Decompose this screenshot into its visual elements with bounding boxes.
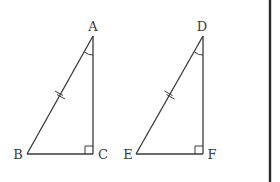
vertex-label-a: A xyxy=(87,19,98,34)
vertex-label-f: F xyxy=(207,147,216,162)
side-ab xyxy=(27,36,93,154)
vertex-label-d: D xyxy=(197,19,207,34)
right-angle-mark-f xyxy=(195,146,203,154)
side-de xyxy=(136,36,203,154)
geometry-diagram: A B C D E F xyxy=(0,0,280,182)
angle-arc-a xyxy=(84,52,93,55)
angle-arc-d xyxy=(194,52,203,55)
triangle-abc: A B C xyxy=(13,19,108,162)
triangle-def: D E F xyxy=(123,19,216,162)
vertex-label-c: C xyxy=(98,147,108,162)
vertex-label-b: B xyxy=(13,147,23,162)
vertex-label-e: E xyxy=(123,147,133,162)
right-angle-mark-c xyxy=(85,146,93,154)
